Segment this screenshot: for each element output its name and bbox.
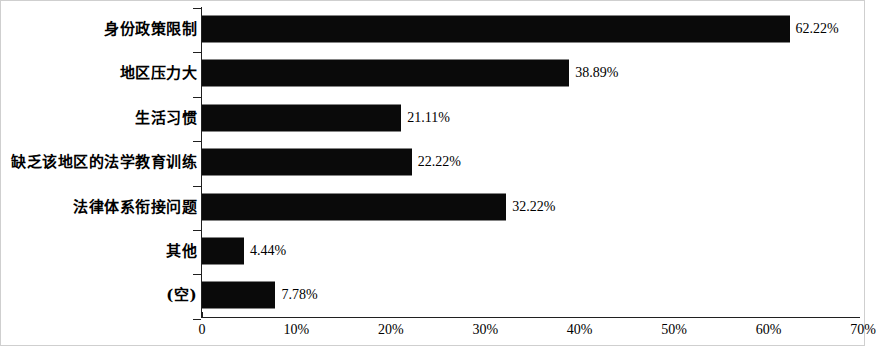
- y-axis-tick: [193, 8, 201, 9]
- bar-value-label: 21.11%: [407, 111, 450, 125]
- x-axis-tick-label: 10%: [284, 323, 310, 337]
- y-axis-tick: [193, 274, 201, 275]
- x-axis-tick-label: 70%: [850, 323, 876, 337]
- bar: [202, 193, 506, 220]
- category-label: (空): [166, 288, 197, 303]
- bar-value-label: 7.78%: [281, 288, 317, 302]
- x-axis-tick-label: 60%: [756, 323, 782, 337]
- category-label: 缺乏该地区的法学教育训练: [11, 155, 197, 170]
- bar-value-label: 38.89%: [575, 66, 618, 80]
- x-axis-tick-label: 50%: [661, 323, 687, 337]
- bar-row: (空)7.78%: [1, 273, 866, 317]
- category-label: 生活习惯: [135, 110, 197, 125]
- bar-track: [202, 104, 863, 131]
- bar: [202, 60, 569, 87]
- bar-row: 其他4.44%: [1, 229, 866, 273]
- y-axis-tick: [193, 186, 201, 187]
- bar: [202, 282, 275, 309]
- x-axis-tick-label: 0: [199, 323, 206, 337]
- bar-track: [202, 238, 863, 265]
- bar: [202, 104, 401, 131]
- bar: [202, 149, 412, 176]
- bar-value-label: 4.44%: [250, 244, 286, 258]
- bar: [202, 238, 244, 265]
- bar-row: 缺乏该地区的法学教育训练22.22%: [1, 140, 866, 184]
- x-axis-tick-label: 30%: [472, 323, 498, 337]
- bar-row: 身份政策限制62.22%: [1, 7, 866, 51]
- bar-value-label: 62.22%: [796, 22, 839, 36]
- y-axis-tick: [193, 319, 201, 320]
- bar-rows-container: 身份政策限制62.22%地区压力大38.89%生活习惯21.11%缺乏该地区的法…: [1, 1, 866, 318]
- bar-row: 生活习惯21.11%: [1, 96, 866, 140]
- category-label: 其他: [166, 244, 197, 259]
- y-axis-tick: [193, 52, 201, 53]
- bar: [202, 16, 790, 43]
- x-axis-tick-label: 20%: [378, 323, 404, 337]
- bar-value-label: 22.22%: [418, 155, 461, 169]
- category-label: 身份政策限制: [104, 22, 197, 37]
- bar-track: [202, 16, 863, 43]
- x-axis-tick-label: 40%: [567, 323, 593, 337]
- y-axis-tick: [193, 97, 201, 98]
- y-axis-tick: [193, 230, 201, 231]
- bar-row: 法律体系衔接问题32.22%: [1, 185, 866, 229]
- bar-value-label: 32.22%: [512, 200, 555, 214]
- category-label: 地区压力大: [120, 66, 198, 81]
- bar-track: [202, 149, 863, 176]
- category-label: 法律体系衔接问题: [73, 199, 197, 214]
- y-axis-tick: [193, 141, 201, 142]
- bar-row: 地区压力大38.89%: [1, 51, 866, 95]
- bar-track: [202, 60, 863, 87]
